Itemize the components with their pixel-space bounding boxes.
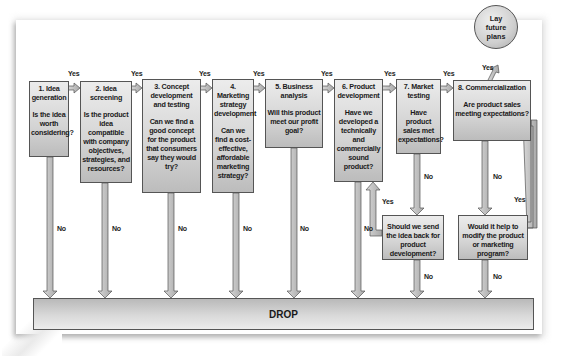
stage-title: 8. Commercialization: [455, 83, 529, 92]
stage-question: Is the product idea compatible with comp…: [82, 110, 130, 173]
decision-question: Would it help to modify the product or m…: [460, 222, 526, 258]
stage-2-idea-screening: 2. Idea screening Is the product idea co…: [80, 81, 132, 183]
decision-send-back: Should we send the idea back for product…: [382, 215, 444, 260]
no-arrow-2: [98, 183, 112, 298]
yes-arrow-4: [253, 83, 265, 93]
stage-1-idea-generation: 1. Idea generation Is the idea worth con…: [29, 81, 69, 157]
stage-question: Will this product meet our profit goal?: [267, 108, 321, 135]
yes-label: Yes: [382, 198, 393, 205]
stage-question: Can we find a good concept for the produ…: [144, 117, 199, 171]
no-label: No: [424, 173, 433, 180]
stage-5-business-analysis: 5. Business analysis Will this product m…: [265, 79, 323, 148]
stage-title: 6. Product development: [336, 82, 381, 100]
yes-label: Yes: [131, 70, 142, 77]
stage-title: 1. Idea generation: [31, 84, 67, 102]
drop-label: DROP: [269, 309, 298, 320]
decision-question: Should we send the idea back for product…: [384, 222, 442, 258]
yes-arrow-2: [131, 83, 142, 93]
stage-6-product-development: 6. Product development Have we developed…: [334, 79, 383, 182]
stage-title: 3. Concept development and testing: [144, 82, 199, 109]
stage-title: 2. Idea screening: [82, 84, 130, 102]
no-label: No: [243, 225, 252, 232]
yes-arrow-6: [382, 83, 396, 93]
stage-title: 4. Marketing strategy development: [214, 82, 252, 118]
yes-arrow-5: [322, 83, 334, 93]
yes-label: Yes: [384, 70, 395, 77]
yes-label: Yes: [199, 70, 210, 77]
stage-title: 5. Business analysis: [267, 82, 321, 100]
stage-8-commercialization: 8. Commercialization Are product sales m…: [453, 80, 531, 141]
yes-label: Yes: [321, 70, 332, 77]
no-label: No: [364, 225, 373, 232]
no-label: No: [112, 225, 121, 232]
stage-question: Is the idea worth considering?: [31, 110, 67, 137]
yes-label: Yes: [68, 70, 79, 77]
stage-title: 7. Market testing: [398, 82, 439, 100]
no-arrow-5: [287, 148, 301, 298]
yes-arrow-3: [200, 83, 212, 93]
no-label: No: [300, 225, 309, 232]
stage-7-market-testing: 7. Market testing Have product sales met…: [396, 79, 441, 154]
no-arrow-1: [43, 157, 57, 298]
no-label: No: [424, 273, 433, 280]
yes-label: Yes: [253, 70, 264, 77]
yes-arrow-1: [68, 83, 80, 93]
no-arrow-7a: [410, 154, 424, 215]
lay-future-plans: Lay future plans: [474, 5, 518, 49]
stage-4-marketing-strategy: 4. Marketing strategy development Can we…: [212, 79, 254, 193]
no-arrow-8: [478, 260, 492, 298]
yes-label: Yes: [514, 196, 525, 203]
yes-label: Yes: [443, 70, 454, 77]
stage-question: Have product sales met expectations?: [398, 108, 439, 144]
stage-question: Can we find a cost-effective, affordable…: [214, 126, 252, 180]
yes-label: Yes: [482, 64, 493, 71]
no-arrow-8a: [478, 141, 492, 215]
stage-question: Are product sales meeting expectations?: [455, 100, 529, 118]
no-label: No: [493, 173, 502, 180]
decision-modify: Would it help to modify the product or m…: [458, 215, 528, 260]
stage-3-concept-development: 3. Concept development and testing Can w…: [142, 79, 201, 193]
no-arrow-3: [164, 193, 178, 298]
stage-question: Have we developed a technically and comm…: [336, 108, 381, 171]
yes-arrow-7: [440, 83, 453, 93]
no-arrow-7: [410, 260, 424, 298]
future-plans-label: Lay future plans: [481, 14, 511, 41]
no-label: No: [178, 225, 187, 232]
no-arrow-4: [229, 193, 243, 298]
no-label: No: [493, 273, 502, 280]
no-arrow-6: [351, 182, 365, 298]
no-label: No: [57, 225, 66, 232]
drop-bar: DROP: [33, 298, 534, 330]
